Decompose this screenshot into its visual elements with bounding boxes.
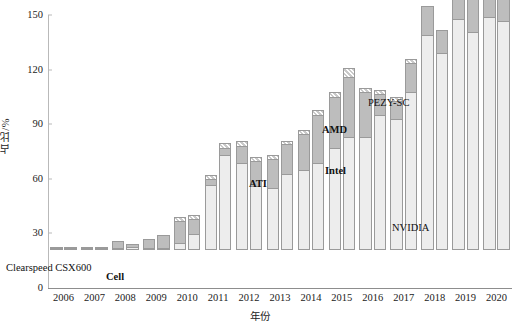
annotation-clearspeed: Clearspeed CSX600 <box>6 262 91 273</box>
bar-2006b <box>64 247 76 250</box>
bar-segment-intel <box>112 241 124 248</box>
x-tick-label: 2006 <box>53 292 74 303</box>
bar-segment-nvidia <box>205 185 217 251</box>
annotation-ati: ATI <box>249 178 267 189</box>
bar-2007 <box>81 247 93 250</box>
bar-segment-intel <box>143 239 155 248</box>
bar-segment-intel <box>298 134 310 170</box>
bar-segment-nvidia <box>329 148 341 250</box>
bar-segment-intel <box>188 219 200 234</box>
bar-segment-intel <box>467 0 479 32</box>
bar-2015b <box>343 68 355 250</box>
bar-segment-nvidia <box>81 248 93 250</box>
x-tick-label: 2020 <box>486 292 507 303</box>
annotation-intel: Intel <box>325 165 346 176</box>
bar-2013 <box>267 155 279 250</box>
bar-segment-intel <box>219 148 231 155</box>
bar-2018 <box>421 6 433 250</box>
bar-segment-nvidia <box>157 248 169 250</box>
bar-2020b <box>497 0 509 250</box>
x-axis-label: 年份 <box>0 308 519 323</box>
bar-2019b <box>467 0 479 250</box>
bar-2009 <box>143 239 155 250</box>
x-tick-label: 2015 <box>331 292 352 303</box>
bar-segment-nvidia <box>298 170 310 250</box>
bar-2008 <box>112 241 124 250</box>
bar-segment-nvidia <box>281 174 293 250</box>
x-tick-label: 2017 <box>393 292 414 303</box>
bar-2012 <box>236 141 248 250</box>
bar-2019 <box>452 0 464 250</box>
bar-segment-nvidia <box>267 188 279 250</box>
bar-segment-nvidia <box>374 115 386 250</box>
bar-2008b <box>126 244 138 250</box>
x-tick-label: 2010 <box>177 292 198 303</box>
annotation-nvidia: NVIDIA <box>392 222 429 233</box>
bar-2020 <box>483 0 495 250</box>
bar-2010b <box>188 215 200 250</box>
bars-layer <box>0 0 519 289</box>
annotation-pezy-sc: PEZY-SC <box>368 97 409 108</box>
bar-segment-intel <box>497 0 509 21</box>
bar-segment-nvidia <box>219 155 231 250</box>
bar-segment-nvidia <box>452 19 464 250</box>
x-tick-label: 2014 <box>300 292 321 303</box>
bar-segment-intel <box>312 115 324 162</box>
bar-segment-intel <box>174 221 186 243</box>
bar-2012b <box>250 157 262 250</box>
bar-segment-nvidia <box>467 32 479 250</box>
x-tick-label: 2007 <box>84 292 105 303</box>
x-tick-label: 2011 <box>208 292 229 303</box>
x-tick-label: 2013 <box>270 292 291 303</box>
bar-segment-nvidia <box>174 243 186 250</box>
x-tick-label: 2019 <box>455 292 476 303</box>
chart-container: 0306090120150 占比/% 200620072008200920102… <box>0 0 519 327</box>
bar-segment-nvidia <box>64 248 76 250</box>
bar-segment-intel <box>452 0 464 19</box>
bar-2018b <box>436 30 448 250</box>
bar-segment-nvidia <box>112 248 124 250</box>
bar-2016 <box>359 88 371 250</box>
bar-2011 <box>205 175 217 250</box>
bar-segment-nvidia <box>143 248 155 250</box>
bar-segment-intel <box>157 235 169 248</box>
bar-segment-intel <box>236 146 248 162</box>
bar-segment-nvidia <box>497 21 509 250</box>
x-tick-label: 2008 <box>115 292 136 303</box>
bar-segment-intel <box>436 30 448 54</box>
bar-segment-nvidia <box>343 137 355 250</box>
annotation-cell: Cell <box>106 271 124 282</box>
bar-segment-nvidia <box>188 234 200 250</box>
bar-segment-intel <box>483 0 495 17</box>
bar-segment-intel <box>421 6 433 35</box>
bar-segment-nvidia <box>483 17 495 250</box>
x-tick-label: 2012 <box>239 292 260 303</box>
bar-segment-intel <box>267 159 279 188</box>
bar-segment-nvidia <box>50 248 62 250</box>
x-tick-label: 2018 <box>424 292 445 303</box>
bar-segment-intel <box>281 144 293 173</box>
bar-segment-intel <box>405 63 417 92</box>
bar-segment-nvidia <box>359 137 371 250</box>
bar-2013b <box>281 141 293 250</box>
bar-segment-nvidia <box>312 163 324 250</box>
bar-segment-intel <box>329 97 341 148</box>
bar-segment-nvidia <box>236 163 248 250</box>
bar-segment-nvidia <box>421 35 433 250</box>
bar-2007b <box>95 247 107 250</box>
bar-segment-nvidia <box>436 53 448 250</box>
bar-segment-nvidia <box>95 248 107 250</box>
bar-segment-nvidia <box>126 247 138 250</box>
bar-segment-nvidia <box>250 186 262 250</box>
x-tick-label: 2016 <box>362 292 383 303</box>
bar-2014 <box>298 130 310 250</box>
bar-2006 <box>50 247 62 250</box>
bar-2009b <box>157 235 169 250</box>
bar-2010 <box>174 217 186 250</box>
x-tick-label: 2009 <box>146 292 167 303</box>
bar-2016b <box>374 90 386 250</box>
annotation-amd: AMD <box>322 124 347 135</box>
bar-segment-other <box>343 68 355 77</box>
bar-2011b <box>219 143 231 250</box>
